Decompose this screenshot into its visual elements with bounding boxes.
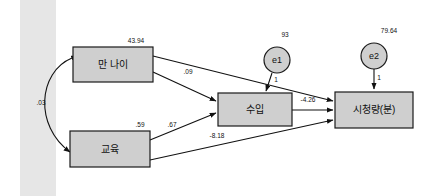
variance-label-age: 43.94 (128, 37, 145, 44)
estimate-label-income-viewing: -4.26 (301, 96, 316, 103)
node-income-label: 수입 (246, 103, 264, 115)
variance-label-education: .59 (135, 121, 144, 128)
loading-label-e1: 1 (274, 76, 278, 83)
node-viewing-label: 시청량(분) (353, 104, 396, 115)
node-age-label: 만 나이 (98, 59, 128, 70)
variance-label-e2: 79.64 (381, 27, 398, 34)
node-e2-label: e2 (369, 51, 379, 61)
path-education-to-income (150, 113, 216, 140)
background-band (20, 0, 56, 196)
estimate-label-education-income: .67 (167, 121, 176, 128)
node-age[interactable]: 만 나이 (73, 47, 153, 82)
path-e1-to-income (266, 73, 272, 91)
estimate-label-age-income: .09 (183, 68, 192, 75)
path-age-to-income (153, 72, 216, 101)
node-e2[interactable]: e2 (361, 43, 387, 69)
estimate-label-covariance: .03 (36, 99, 45, 106)
node-income[interactable]: 수입 (218, 93, 292, 126)
node-e1-label: e1 (272, 55, 282, 65)
variance-label-e1: 93 (281, 31, 289, 38)
node-viewing[interactable]: 시청량(분) (335, 92, 413, 128)
loading-label-e2: 1 (377, 74, 381, 81)
node-education-label: 교육 (101, 144, 119, 155)
node-e1[interactable]: e1 (264, 47, 290, 73)
node-education[interactable]: 교육 (70, 131, 150, 167)
estimate-label-education-viewing: -8.18 (210, 132, 225, 139)
path-diagram-canvas: 만 나이 43.94 교육 .59 수입 시청량(분) e1 93 1 e2 7… (0, 0, 440, 196)
